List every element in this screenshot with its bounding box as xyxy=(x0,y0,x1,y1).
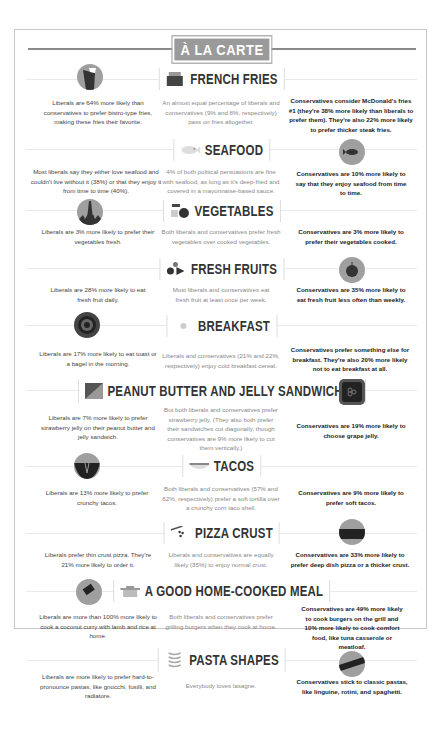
both-text: Both liberals and conservatives prefer g… xyxy=(165,612,277,631)
pot-icon xyxy=(120,584,140,598)
section-label: FRESH FRUITS xyxy=(159,258,284,280)
section-label: VEGETABLES xyxy=(162,200,280,222)
bagel-icon xyxy=(74,312,100,338)
conservative-text: Conservatives are 19% more likely to cho… xyxy=(295,421,407,440)
carrot-icon xyxy=(77,199,103,225)
both-text: Liberals and conservatives are equally l… xyxy=(162,550,280,569)
conservative-text: Conservatives consider McDonald's fries … xyxy=(287,96,415,134)
bistro-fries-cup-icon xyxy=(77,64,103,90)
curry-pan-icon xyxy=(76,579,102,605)
liberal-text: Liberals are 17% more likely to eat toas… xyxy=(38,349,158,368)
liberal-text: Liberals are 7% more likely to prefer st… xyxy=(36,413,160,442)
grape-jelly-jar-icon xyxy=(339,379,365,405)
section-label: TACOS xyxy=(182,455,261,477)
fried-fish-icon xyxy=(339,139,365,165)
liberal-text: Liberals are 28% more likely to eat fres… xyxy=(48,285,148,304)
liberal-text: Liberals are 3% more likely to prefer th… xyxy=(38,227,158,246)
conservative-text: Conservatives are 49% more likely to coo… xyxy=(300,604,404,652)
section-label: SEAFOOD xyxy=(173,139,270,161)
both-text: Everybody loves lasagne. xyxy=(165,681,277,691)
both-text: Most liberals and conservatives eat fres… xyxy=(165,285,277,304)
both-text: Both liberals and conservatives prefer f… xyxy=(160,227,282,246)
both-text: An almost equal percentage of liberals a… xyxy=(162,98,280,127)
both-text: But both liberals and conservatives pref… xyxy=(163,405,279,453)
both-text: Both liberals and conservatives (57% and… xyxy=(160,484,282,513)
conservative-text: Conservatives are 9% more likely to pref… xyxy=(295,488,407,507)
crunchy-taco-icon xyxy=(74,453,100,479)
rotini-pasta-icon xyxy=(339,651,365,677)
fries-box-icon xyxy=(165,72,185,86)
liberal-text: Liberals are more than 100% more likely … xyxy=(38,612,158,641)
section-label: PASTA SHAPES xyxy=(157,648,286,672)
egg-icon xyxy=(173,319,193,333)
conservative-text: Conservatives are 10% more likely to say… xyxy=(295,169,407,198)
section-label: PEANUT BUTTER AND JELLY SANDWICHES xyxy=(77,379,365,403)
liberal-text: Liberals prefer thin crust pizza. They'r… xyxy=(38,550,158,569)
section-label: FRENCH FRIES xyxy=(158,68,284,90)
pizza-slice-icon xyxy=(170,526,190,540)
conservative-text: Conservatives prefer something else for … xyxy=(290,345,410,374)
apple-icon xyxy=(339,257,365,283)
both-text: 4% of both political persuasions are fin… xyxy=(160,167,282,196)
liberal-text: Liberals are 13% more likely to prefer c… xyxy=(40,488,154,507)
pasta-icon xyxy=(164,651,184,669)
fruits-icon xyxy=(166,262,186,276)
conservative-text: Conservatives are 33% more likely to pre… xyxy=(290,550,410,569)
liberal-text: Liberals are more likely to prefer hard-… xyxy=(34,672,162,701)
conservative-text: Conservatives stick to classic pastas, l… xyxy=(293,677,411,696)
section-label: PIZZA CRUST xyxy=(163,522,280,544)
taco-icon xyxy=(189,459,209,473)
both-text: Liberals and conservatives (21% and 22%,… xyxy=(160,351,282,370)
conservative-text: Conservatives are 3% more likely to pref… xyxy=(295,227,407,246)
vegetables-icon xyxy=(169,204,189,218)
liberal-text: Most liberals say they either love seafo… xyxy=(30,167,162,196)
sandwich-icon xyxy=(84,383,102,399)
conservative-text: Conservatives are 35% more likely to eat… xyxy=(292,285,410,304)
title-row: À LA CARTE xyxy=(28,41,416,57)
page-title: À LA CARTE xyxy=(172,36,271,62)
section-label: A GOOD HOME-COOKED MEAL xyxy=(113,580,331,602)
fish-icon xyxy=(180,143,200,157)
section-label: BREAKFAST xyxy=(166,315,277,337)
deep-dish-pizza-icon xyxy=(339,519,365,545)
liberal-text: Liberals are 64% more likely than conser… xyxy=(38,98,158,127)
